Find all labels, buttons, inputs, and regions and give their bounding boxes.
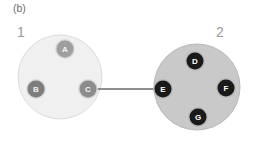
node-c-label: C	[85, 85, 91, 94]
node-e[interactable]: E	[153, 79, 173, 99]
node-g-label: G	[195, 113, 201, 122]
node-d-label: D	[192, 57, 198, 66]
cluster-label-1: 1	[17, 24, 25, 40]
node-b-label: B	[33, 85, 39, 94]
node-c[interactable]: C	[78, 79, 98, 99]
node-a-label: A	[62, 45, 68, 54]
node-d[interactable]: D	[185, 51, 205, 71]
node-b[interactable]: B	[26, 79, 46, 99]
node-g[interactable]: G	[188, 107, 208, 127]
node-e-label: E	[160, 85, 166, 94]
figure-panel: (b) A B C	[0, 0, 254, 141]
node-f-label: F	[224, 84, 229, 93]
cluster-label-2: 2	[216, 24, 224, 40]
node-a[interactable]: A	[55, 39, 75, 59]
network-graph: A B C D E	[0, 0, 254, 141]
node-f[interactable]: F	[216, 78, 236, 98]
